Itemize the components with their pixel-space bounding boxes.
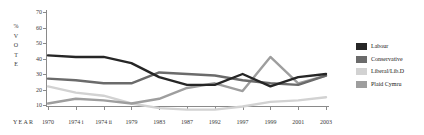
chart-container: % V O T E 10203040506070 19701974 i1974 … — [0, 0, 424, 135]
legend-label: Labour — [371, 43, 388, 50]
series-line-plaid-cymru — [48, 57, 326, 103]
legend-swatch — [356, 81, 367, 88]
legend-swatch — [356, 43, 367, 50]
legend-item[interactable]: Conservative — [356, 56, 404, 63]
legend: LabourConservativeLiberal/Lib.DPlaid Cym… — [356, 43, 404, 93]
series-line-liberal-lib-d — [48, 86, 326, 109]
legend-item[interactable]: Liberal/Lib.D — [356, 68, 404, 75]
legend-item[interactable]: Plaid Cymru — [356, 81, 404, 88]
legend-item[interactable]: Labour — [356, 43, 404, 50]
legend-label: Liberal/Lib.D — [371, 68, 404, 75]
legend-label: Plaid Cymru — [371, 81, 402, 88]
legend-swatch — [356, 56, 367, 63]
legend-swatch — [356, 68, 367, 75]
legend-label: Conservative — [371, 56, 403, 63]
